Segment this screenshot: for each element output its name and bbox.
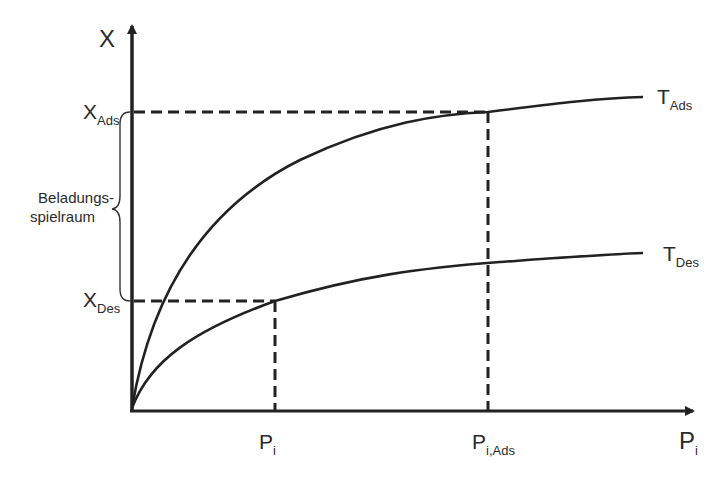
p-i-ads-marker-label: Pi,Ads bbox=[472, 431, 515, 452]
brace-label-line2: spielraum bbox=[22, 207, 114, 226]
x-des-label: XDes bbox=[83, 289, 120, 310]
t-des-label: TDes bbox=[663, 243, 699, 264]
p-i-marker-label: Pi bbox=[259, 431, 276, 452]
t-des-curve bbox=[132, 253, 643, 408]
brace-label: Beladungs- spielraum bbox=[22, 188, 114, 226]
isotherm-diagram bbox=[0, 0, 728, 479]
loading-range-brace bbox=[112, 112, 130, 301]
t-ads-curve bbox=[132, 97, 643, 408]
t-ads-label: TAds bbox=[657, 86, 692, 107]
x-axis-label: Pi bbox=[679, 429, 698, 453]
brace-label-line1: Beladungs- bbox=[22, 188, 114, 207]
x-ads-label: XAds bbox=[83, 101, 119, 122]
y-axis-label: X bbox=[99, 27, 115, 51]
